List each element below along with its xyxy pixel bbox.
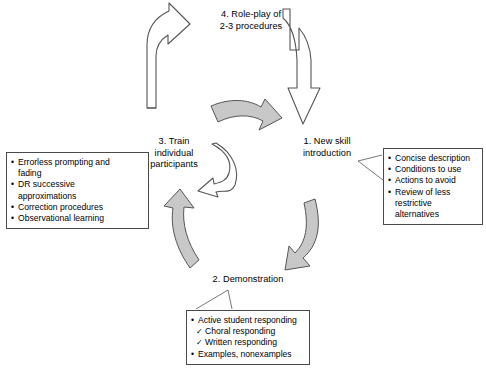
bullet-icon: • bbox=[11, 179, 14, 190]
detail-box-training: •Errorless prompting andfading•DR succes… bbox=[6, 152, 149, 229]
process-cycle-diagram: 4. Role-play of 2-3 procedures 1. New sk… bbox=[0, 0, 486, 372]
detail-box-demonstration: •Active student responding✓Choral respon… bbox=[186, 310, 310, 365]
check-icon: ✓ bbox=[196, 337, 203, 348]
list-item: •Conditions to use bbox=[388, 164, 477, 175]
list-item: restrictive alternatives bbox=[388, 198, 477, 220]
list-item: approximations bbox=[11, 191, 143, 202]
check-icon: ✓ bbox=[196, 326, 203, 337]
list-item-label: Active student responding bbox=[198, 315, 297, 325]
list-item: •Examples, nonexamples bbox=[191, 349, 304, 360]
bullet-icon: • bbox=[388, 164, 391, 175]
detail-list-training: •Errorless prompting andfading•DR succes… bbox=[11, 157, 143, 224]
list-item: •Correction procedures bbox=[11, 202, 143, 213]
bullet-icon: • bbox=[388, 175, 391, 186]
list-item: ✓Written responding bbox=[191, 337, 304, 348]
arrow-stage1-to-stage2-gray bbox=[285, 199, 318, 270]
list-item-label: Review of less bbox=[395, 187, 450, 197]
list-item: •Observational learning bbox=[11, 213, 143, 224]
stage-label-demonstration: 2. Demonstration bbox=[183, 274, 313, 286]
leader-line-demonstration bbox=[196, 290, 232, 309]
list-item-label: Examples, nonexamples bbox=[198, 349, 292, 359]
list-item-label: DR successive bbox=[18, 179, 75, 189]
list-item: •Errorless prompting and bbox=[11, 157, 143, 168]
list-item-label: Concise description bbox=[395, 153, 470, 163]
bullet-icon: • bbox=[11, 157, 14, 168]
detail-list-skill-introduction: •Concise description•Conditions to use•A… bbox=[388, 153, 477, 220]
detail-list-demonstration: •Active student responding✓Choral respon… bbox=[191, 315, 304, 360]
list-item: •Concise description bbox=[388, 153, 477, 164]
list-item-label: approximations bbox=[18, 191, 76, 201]
list-item-label: Observational learning bbox=[18, 213, 104, 223]
arrow-stage2-to-stage3-gray bbox=[164, 189, 199, 268]
list-item: ✓Choral responding bbox=[191, 326, 304, 337]
bullet-icon: • bbox=[11, 213, 14, 224]
list-item: fading bbox=[11, 168, 143, 179]
bullet-icon: • bbox=[11, 202, 14, 213]
list-item: •DR successive bbox=[11, 179, 143, 190]
list-item-label: Actions to avoid bbox=[395, 175, 456, 185]
arrow-cycle-top-gray bbox=[211, 99, 282, 130]
bullet-icon: • bbox=[388, 187, 391, 198]
list-item: •Active student responding bbox=[191, 315, 304, 326]
list-item: •Review of less bbox=[388, 187, 477, 198]
stage-label-new-skill-introduction: 1. New skill introduction bbox=[281, 136, 373, 159]
list-item-label: Correction procedures bbox=[18, 202, 103, 212]
arrow-stage3-to-stage4 bbox=[147, 3, 190, 108]
bullet-icon: • bbox=[388, 153, 391, 164]
detail-box-skill-introduction: •Concise description•Conditions to use•A… bbox=[383, 148, 483, 225]
list-item-label: Conditions to use bbox=[395, 164, 461, 174]
list-item-label: Written responding bbox=[205, 337, 277, 347]
bullet-icon: • bbox=[191, 315, 194, 326]
stage-label-role-play: 4. Role-play of 2-3 procedures bbox=[186, 9, 316, 32]
list-item-label: Errorless prompting and bbox=[18, 157, 110, 167]
list-item-label: restrictive alternatives bbox=[395, 198, 439, 219]
bullet-icon: • bbox=[191, 349, 194, 360]
list-item-label: Choral responding bbox=[205, 326, 275, 336]
list-item: •Actions to avoid bbox=[388, 175, 477, 186]
list-item-label: fading bbox=[18, 168, 41, 178]
